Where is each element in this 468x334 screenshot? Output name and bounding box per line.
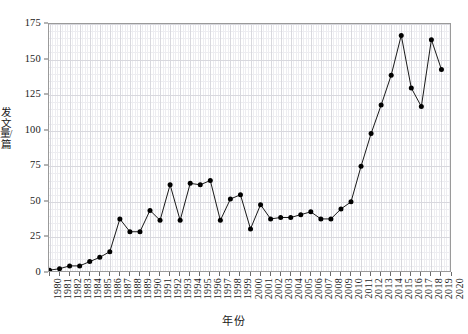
data-point-marker <box>77 263 82 268</box>
x-tick-mark <box>300 272 301 276</box>
y-tick-label: 125 <box>25 89 41 100</box>
x-tick-mark <box>430 272 431 276</box>
data-point-marker <box>137 229 142 234</box>
x-tick-mark <box>340 272 341 276</box>
x-tick-mark <box>390 272 391 276</box>
data-point-marker <box>148 208 153 213</box>
data-point-marker <box>278 215 283 220</box>
data-point-marker <box>117 216 122 221</box>
data-point-marker <box>258 202 263 207</box>
y-axis-ticks: 0255075100125150175 <box>0 0 48 295</box>
x-tick-mark <box>139 272 140 276</box>
x-axis-title-text: 年份 <box>222 315 246 327</box>
series-polyline <box>50 35 442 270</box>
x-tick-mark <box>360 272 361 276</box>
x-tick-mark <box>270 272 271 276</box>
data-point-marker <box>439 67 444 72</box>
y-tick-label: 0 <box>36 267 41 278</box>
data-point-marker <box>248 226 253 231</box>
x-axis-title: 年份 <box>0 312 468 328</box>
y-tick-label: 175 <box>25 18 41 29</box>
x-tick-mark <box>159 272 160 276</box>
x-tick-mark <box>149 272 150 276</box>
data-point-marker <box>127 229 132 234</box>
x-tick-mark <box>420 272 421 276</box>
y-tick-label: 50 <box>30 196 41 207</box>
x-tick-mark <box>310 272 311 276</box>
x-tick-mark <box>380 272 381 276</box>
data-point-marker <box>429 37 434 42</box>
x-tick-mark <box>119 272 120 276</box>
x-tick-label: 2020 <box>455 278 465 299</box>
data-point-marker <box>178 218 183 223</box>
data-point-marker <box>107 249 112 254</box>
x-tick-mark <box>59 272 60 276</box>
x-tick-mark <box>69 272 70 276</box>
data-point-marker <box>198 182 203 187</box>
x-tick-mark <box>400 272 401 276</box>
x-tick-mark <box>49 272 50 276</box>
data-point-marker <box>328 216 333 221</box>
data-point-marker <box>369 131 374 136</box>
y-tick-label: 150 <box>25 53 41 64</box>
data-point-marker <box>308 209 313 214</box>
x-tick-label: 1980 <box>53 278 63 299</box>
data-point-marker <box>389 73 394 78</box>
x-tick-mark <box>330 272 331 276</box>
x-tick-mark <box>229 272 230 276</box>
x-tick-mark <box>169 272 170 276</box>
data-point-marker <box>67 263 72 268</box>
data-point-marker <box>97 255 102 260</box>
x-tick-mark <box>129 272 130 276</box>
plot-area <box>48 23 451 272</box>
data-point-marker <box>87 259 92 264</box>
data-point-marker <box>419 104 424 109</box>
data-point-marker <box>318 216 323 221</box>
data-point-marker <box>298 212 303 217</box>
x-tick-mark <box>109 272 110 276</box>
x-tick-label: 1999 <box>243 278 253 299</box>
data-point-marker <box>268 216 273 221</box>
y-tick-label: 75 <box>30 160 41 171</box>
data-point-marker <box>158 218 163 223</box>
data-point-marker <box>399 33 404 38</box>
x-tick-mark <box>260 272 261 276</box>
x-tick-mark <box>239 272 240 276</box>
x-tick-mark <box>451 272 452 276</box>
x-tick-mark <box>79 272 80 276</box>
x-tick-label: 2019 <box>444 278 454 299</box>
data-point-marker <box>168 182 173 187</box>
data-point-marker <box>57 266 62 271</box>
x-tick-mark <box>280 272 281 276</box>
x-tick-mark <box>290 272 291 276</box>
x-tick-mark <box>410 272 411 276</box>
data-point-marker <box>409 86 414 91</box>
data-point-marker <box>359 164 364 169</box>
data-point-marker <box>288 215 293 220</box>
data-point-marker <box>188 181 193 186</box>
x-tick-mark <box>179 272 180 276</box>
x-tick-mark <box>99 272 100 276</box>
x-tick-mark <box>89 272 90 276</box>
data-point-marker <box>379 103 384 108</box>
x-tick-mark <box>209 272 210 276</box>
data-point-marker <box>228 197 233 202</box>
data-point-marker <box>208 178 213 183</box>
x-tick-mark <box>440 272 441 276</box>
x-tick-mark <box>370 272 371 276</box>
y-tick-label: 100 <box>25 124 41 135</box>
data-point-marker <box>338 206 343 211</box>
data-series-line <box>49 24 451 272</box>
x-tick-mark <box>350 272 351 276</box>
y-tick-label: 25 <box>30 231 41 242</box>
x-tick-mark <box>320 272 321 276</box>
x-tick-mark <box>189 272 190 276</box>
data-point-marker <box>238 192 243 197</box>
chart-figure: 发文量/篇 0255075100125150175 19801981198219… <box>0 0 468 334</box>
data-point-marker <box>218 218 223 223</box>
x-tick-mark <box>199 272 200 276</box>
x-tick-label: 2000 <box>254 278 264 299</box>
data-point-marker <box>349 199 354 204</box>
x-tick-mark <box>219 272 220 276</box>
x-tick-mark <box>250 272 251 276</box>
